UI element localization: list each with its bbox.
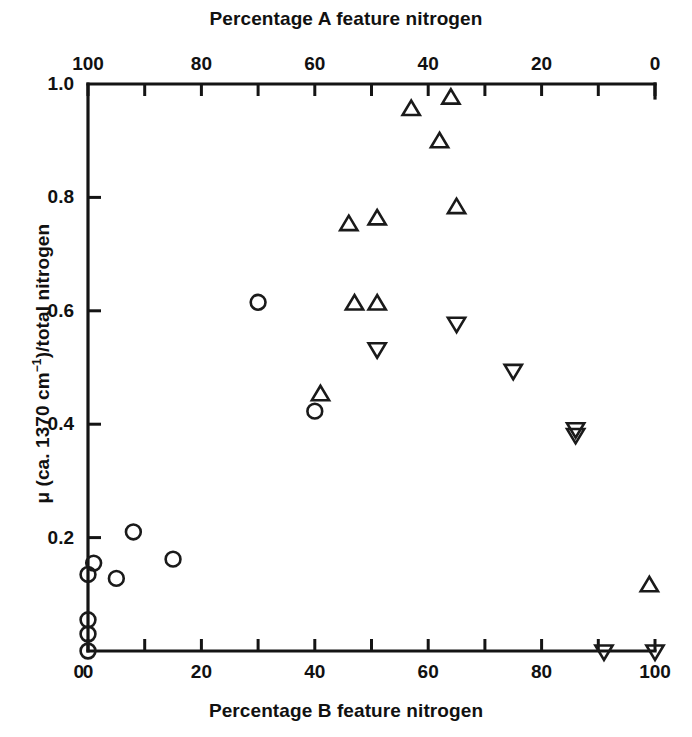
series-down-triangle xyxy=(369,318,664,660)
x-tick-label-top: 0 xyxy=(650,53,661,75)
x-tick-label-bottom: 80 xyxy=(531,661,552,683)
data-point-triangle-up xyxy=(312,386,329,400)
y-tick-label: 0.6 xyxy=(18,300,74,322)
series-circle xyxy=(81,295,323,659)
data-point-triangle-down xyxy=(448,318,465,332)
data-point-triangle-up xyxy=(431,133,448,147)
x-tick-label-top: 20 xyxy=(531,53,552,75)
x-tick-label-bottom: 40 xyxy=(304,661,325,683)
x-tick-label-bottom: 60 xyxy=(418,661,439,683)
data-point-circle xyxy=(126,525,141,540)
y-tick-label-zero: 0 xyxy=(62,661,84,683)
x-tick-label-bottom: 20 xyxy=(191,661,212,683)
data-point-triangle-up xyxy=(448,199,465,213)
series-up-triangle xyxy=(312,89,658,591)
data-point-triangle-up xyxy=(340,216,357,230)
data-point-triangle-up xyxy=(369,295,386,309)
data-point-circle xyxy=(109,571,124,586)
data-point-triangle-up xyxy=(641,577,658,591)
y-tick-label: 0.2 xyxy=(18,527,74,549)
data-point-circle xyxy=(251,295,266,310)
x-tick-label-bottom: 100 xyxy=(639,661,671,683)
y-tick-label: 0.8 xyxy=(18,186,74,208)
chart-figure: Percentage A feature nitrogen Percentage… xyxy=(0,0,692,737)
x-tick-label-top: 60 xyxy=(304,53,325,75)
data-point-triangle-up xyxy=(346,295,363,309)
data-point-triangle-up xyxy=(403,101,420,115)
x-tick-label-top: 80 xyxy=(191,53,212,75)
data-point-circle xyxy=(307,404,322,419)
x-tick-label-bottom: 0 xyxy=(83,661,94,683)
y-tick-label: 0.4 xyxy=(18,413,74,435)
y-tick-label: 1.0 xyxy=(18,73,74,95)
x-tick-label-top: 40 xyxy=(418,53,439,75)
data-point-triangle-up xyxy=(442,89,459,103)
scatter-plot-canvas xyxy=(0,0,692,737)
data-point-triangle-down xyxy=(595,646,612,660)
data-point-circle xyxy=(166,552,181,567)
data-point-triangle-up xyxy=(369,210,386,224)
x-tick-label-top: 100 xyxy=(72,53,104,75)
data-point-triangle-down xyxy=(369,343,386,357)
data-point-triangle-down xyxy=(505,365,522,379)
